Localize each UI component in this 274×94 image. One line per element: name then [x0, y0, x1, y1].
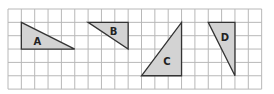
triangle-label-c: C	[163, 56, 170, 67]
triangle-label-d: D	[221, 32, 229, 43]
grid-diagram: ABCD	[0, 0, 274, 94]
triangle-label-b: B	[110, 26, 118, 37]
triangle-label-a: A	[33, 36, 41, 47]
grid-canvas: ABCD	[0, 0, 274, 94]
